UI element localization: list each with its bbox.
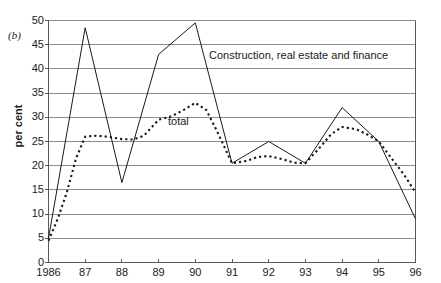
x-tick-label: 91: [226, 266, 238, 278]
y-tick-label: 45: [20, 39, 44, 50]
x-tick-label: 95: [373, 266, 385, 278]
series-label-total: total: [168, 115, 189, 127]
x-tick-label: 87: [79, 266, 91, 278]
x-tick-label: 92: [263, 266, 275, 278]
y-tick-label: 50: [20, 15, 44, 26]
x-tick-label: 88: [116, 266, 128, 278]
x-tick-label: 1986: [36, 266, 60, 278]
x-tick-label: 96: [409, 266, 421, 278]
y-tick-label: 30: [20, 111, 44, 122]
series-label-construction: Construction, real estate and finance: [209, 49, 388, 61]
x-tick-marks: [49, 259, 416, 263]
y-tick-label: 10: [20, 208, 44, 219]
y-tick-marks: [45, 21, 49, 263]
y-tick-label: 20: [20, 160, 44, 171]
y-tick-label: 15: [20, 184, 44, 195]
x-tick-label: 93: [299, 266, 311, 278]
x-tick-label: 94: [336, 266, 348, 278]
series-line-total: [49, 103, 416, 241]
plot-area: [0, 0, 441, 283]
y-tick-label: 25: [20, 136, 44, 147]
x-tick-label: 90: [189, 266, 201, 278]
y-tick-label: 35: [20, 87, 44, 98]
x-tick-label: 89: [152, 266, 164, 278]
y-tick-label: 40: [20, 63, 44, 74]
y-axis-ticks: 05101520253035404550: [16, 0, 44, 283]
y-tick-label: 5: [20, 232, 44, 243]
chart-figure: (b) per cent 05101520253035404550 198687…: [0, 0, 441, 283]
